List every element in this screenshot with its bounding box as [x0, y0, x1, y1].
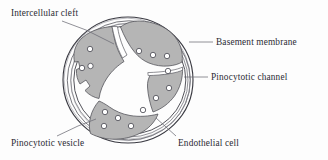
- endothelial-cell-lower: [89, 101, 158, 139]
- pinocytotic-vesicle: [87, 46, 92, 51]
- label-intercellular-cleft: Intercellular cleft: [11, 9, 78, 18]
- pinocytotic-vesicle: [136, 48, 141, 53]
- pinocytotic-vesicle: [128, 123, 133, 128]
- pinocytotic-vesicle: [153, 95, 158, 100]
- pinocytotic-vesicle: [150, 52, 155, 57]
- pinocytotic-vesicle: [165, 68, 170, 73]
- pinocytotic-vesicle: [102, 109, 107, 114]
- label-endothelial-cell: Endothelial cell: [178, 139, 239, 148]
- pinocytotic-vesicle: [79, 65, 84, 70]
- label-pinocytotic-vesicle: Pinocytotic vesicle: [11, 139, 84, 148]
- pinocytotic-vesicle: [164, 53, 169, 58]
- endothelial-cell-upper-right: [121, 21, 183, 66]
- label-basement-membrane: Basement membrane: [216, 38, 297, 47]
- label-pinocytotic-channel: Pinocytotic channel: [211, 73, 287, 82]
- pinocytotic-vesicle: [115, 115, 120, 120]
- pinocytotic-vesicle: [140, 107, 145, 112]
- pinocytotic-vesicle: [88, 63, 93, 68]
- leader-line-endothelial-cell: [156, 118, 176, 136]
- pinocytotic-vesicle: [101, 123, 106, 128]
- pinocytotic-vesicle: [166, 85, 171, 90]
- capillary-diagram-figure: Intercellular cleft Basement membrane Pi…: [0, 0, 328, 160]
